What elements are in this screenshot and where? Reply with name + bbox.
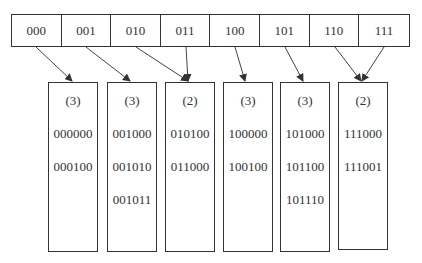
bucket-3: (3) 100000 100100 <box>223 82 273 252</box>
pointer-arrow-101 <box>285 47 303 81</box>
bucket-key: 001011 <box>108 192 156 212</box>
bucket-key: 000100 <box>49 159 97 179</box>
local-depth: (3) <box>49 93 97 113</box>
bucket-key: 100000 <box>224 126 272 146</box>
bucket-key: 101110 <box>281 192 329 212</box>
bucket-key: 001000 <box>108 126 156 146</box>
bucket-key: 111001 <box>339 159 387 179</box>
bucket-key: 000000 <box>49 126 97 146</box>
pointer-arrow-011 <box>186 47 188 81</box>
bucket-key: 101000 <box>281 126 329 146</box>
bucket-1: (3) 001000 001010 001011 <box>107 82 157 252</box>
pointer-arrow-010 <box>136 47 188 81</box>
bucket-key: 100100 <box>224 159 272 179</box>
bucket-2: (2) 010100 011000 <box>165 82 215 252</box>
pointer-arrow-001 <box>86 47 130 81</box>
bucket-4: (3) 101000 101100 101110 <box>280 82 330 252</box>
bucket-key: 001010 <box>108 159 156 179</box>
bucket-key: 011000 <box>166 159 214 179</box>
pointer-arrow-100 <box>235 47 245 81</box>
pointer-arrow-111 <box>362 47 384 81</box>
local-depth: (3) <box>108 93 156 113</box>
pointer-arrow-110 <box>335 47 361 81</box>
local-depth: (3) <box>224 93 272 113</box>
pointer-arrow-000 <box>36 47 72 81</box>
local-depth: (2) <box>166 93 214 113</box>
bucket-key: 010100 <box>166 126 214 146</box>
local-depth: (2) <box>339 93 387 113</box>
bucket-key: 101100 <box>281 159 329 179</box>
bucket-0: (3) 000000 000100 <box>48 82 98 252</box>
bucket-5: (2) 111000 111001 <box>338 82 388 250</box>
bucket-key: 111000 <box>339 126 387 146</box>
local-depth: (3) <box>281 93 329 113</box>
